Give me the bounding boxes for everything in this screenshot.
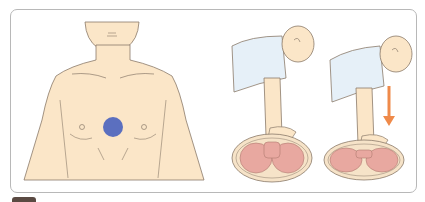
hand-placement-marker bbox=[103, 117, 123, 137]
torso-figure bbox=[24, 22, 204, 180]
down-arrow-icon bbox=[383, 86, 395, 126]
rescuer-compress-figure bbox=[324, 36, 412, 180]
cpr-illustration bbox=[0, 0, 425, 202]
caption-tab bbox=[12, 197, 36, 202]
rescuer-before-figure bbox=[232, 26, 314, 182]
